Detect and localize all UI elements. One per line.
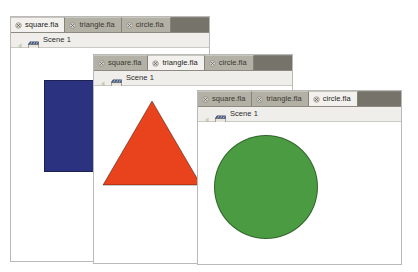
tab-label: triangle.fla bbox=[79, 21, 114, 29]
tab-triangle-fla[interactable]: triangle.fla bbox=[148, 55, 204, 70]
scene-clapperboard-icon bbox=[215, 110, 226, 119]
scene-label[interactable]: Scene 1 bbox=[43, 36, 71, 44]
tab-bar: square.flatriangle.flacircle.fla bbox=[198, 91, 401, 107]
green-circle[interactable] bbox=[214, 135, 318, 239]
scene-label[interactable]: Scene 1 bbox=[126, 74, 154, 82]
tab-label: square.fla bbox=[25, 21, 58, 29]
scene-clapperboard-icon bbox=[111, 74, 122, 83]
back-arrow-icon[interactable] bbox=[16, 36, 24, 44]
tab-circle-fla[interactable]: circle.fla bbox=[122, 17, 171, 32]
tab-label: triangle.fla bbox=[266, 95, 301, 103]
tab-triangle-fla[interactable]: triangle.fla bbox=[65, 17, 121, 32]
tab-label: square.fla bbox=[212, 95, 245, 103]
tab-bar-filler bbox=[171, 17, 209, 32]
close-icon[interactable] bbox=[98, 60, 105, 67]
tab-label: circle.fla bbox=[219, 59, 247, 67]
scene-breadcrumb-bar: Scene 1 bbox=[94, 71, 292, 86]
tab-square-fla[interactable]: square.fla bbox=[198, 91, 252, 106]
back-arrow-icon[interactable] bbox=[203, 110, 211, 118]
tab-label: square.fla bbox=[108, 59, 141, 67]
scene-clapperboard-icon bbox=[28, 36, 39, 45]
stage-canvas[interactable] bbox=[198, 122, 401, 264]
tab-label: circle.fla bbox=[136, 21, 164, 29]
close-icon[interactable] bbox=[313, 96, 320, 103]
close-icon[interactable] bbox=[256, 96, 263, 103]
close-icon[interactable] bbox=[69, 22, 76, 29]
blue-square[interactable] bbox=[44, 80, 99, 172]
tab-label: triangle.fla bbox=[162, 59, 197, 67]
tab-circle-fla[interactable]: circle.fla bbox=[205, 55, 254, 70]
tab-bar: square.flatriangle.flacircle.fla bbox=[11, 17, 209, 33]
back-arrow-icon[interactable] bbox=[99, 74, 107, 82]
scene-label[interactable]: Scene 1 bbox=[230, 110, 258, 118]
tab-square-fla[interactable]: square.fla bbox=[11, 17, 65, 32]
scene-breadcrumb-bar: Scene 1 bbox=[11, 33, 209, 48]
tab-bar: square.flatriangle.flacircle.fla bbox=[94, 55, 292, 71]
window-circle[interactable]: square.flatriangle.flacircle.flaScene 1 bbox=[197, 90, 402, 265]
close-icon[interactable] bbox=[209, 60, 216, 67]
tab-bar-filler bbox=[254, 55, 292, 70]
tab-bar-filler bbox=[358, 91, 401, 106]
tab-triangle-fla[interactable]: triangle.fla bbox=[252, 91, 308, 106]
tab-label: circle.fla bbox=[323, 95, 351, 103]
scene-breadcrumb-bar: Scene 1 bbox=[198, 107, 401, 122]
close-icon[interactable] bbox=[126, 22, 133, 29]
close-icon[interactable] bbox=[152, 60, 159, 67]
tab-square-fla[interactable]: square.fla bbox=[94, 55, 148, 70]
tab-circle-fla[interactable]: circle.fla bbox=[309, 91, 358, 106]
screenshot-root: square.flatriangle.flacircle.flaScene 1s… bbox=[0, 0, 418, 272]
close-icon[interactable] bbox=[15, 22, 22, 29]
close-icon[interactable] bbox=[202, 96, 209, 103]
orange-triangle[interactable] bbox=[102, 100, 202, 186]
